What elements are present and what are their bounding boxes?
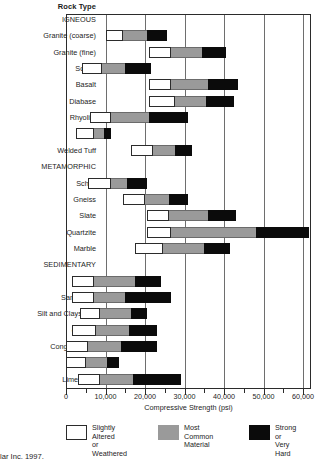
table-row [66, 357, 119, 368]
page-title: Rock Type [0, 2, 96, 11]
footer-credit: lar Inc. 1997. [0, 452, 44, 461]
bar-segment-weathered [72, 292, 94, 303]
bar-segment-common [100, 374, 134, 385]
bar-segment-weathered [106, 30, 124, 41]
chart-legend: Slightly Altered or WeatheredMost Common… [0, 424, 317, 450]
bar-segment-weathered [82, 63, 102, 74]
table-row [72, 292, 171, 303]
bar-segment-hard [135, 276, 161, 287]
bar-segment-hard [129, 325, 157, 336]
bar-segment-common [86, 357, 108, 368]
table-row [135, 243, 230, 254]
legend-label: Most Common Material [184, 424, 213, 450]
bar-segment-hard [175, 145, 193, 156]
legend-swatch-light [66, 425, 87, 440]
bar-segment-hard [121, 341, 157, 352]
bar-segment-common [163, 243, 204, 254]
y-axis-label: Granite (fine) [0, 48, 96, 57]
bar-segment-weathered [135, 243, 163, 254]
x-tick-label: 20,000 [123, 392, 167, 401]
bar-segment-weathered [66, 341, 88, 352]
gridline-40000 [224, 15, 225, 388]
gridline-50000 [264, 15, 265, 388]
y-axis-group-label: IGNEOUS [0, 15, 96, 24]
bar-segment-common [94, 128, 104, 139]
bar-segment-common [171, 227, 256, 238]
bar-segment-hard [125, 292, 170, 303]
table-row [131, 145, 192, 156]
x-axis-title: Compressive Strength (psi) [66, 403, 311, 412]
table-row [106, 30, 167, 41]
bar-segment-common [94, 292, 126, 303]
table-row [149, 79, 238, 90]
table-row [72, 276, 161, 287]
bar-segment-weathered [66, 357, 86, 368]
y-axis-label: Basalt [0, 80, 96, 89]
bar-segment-common [171, 47, 203, 58]
bar-segment-hard [149, 112, 189, 123]
bar-segment-hard [202, 47, 226, 58]
y-axis-label: Schist [0, 179, 96, 188]
bar-segment-common [111, 112, 149, 123]
y-axis-group-label: SEDIMENTARY [0, 260, 96, 269]
bar-segment-common [96, 325, 130, 336]
bar-segment-common [94, 276, 135, 287]
bar-segment-common [153, 145, 175, 156]
y-axis-label: Marble [0, 244, 96, 253]
bar-segment-weathered [147, 210, 169, 221]
bar-segment-weathered [131, 145, 153, 156]
bar-segment-common [175, 96, 207, 107]
x-tick-label: 0 [44, 392, 88, 401]
x-tick-label: 60,000 [281, 392, 317, 401]
bar-segment-weathered [90, 112, 112, 123]
x-tick-label: 10,000 [84, 392, 128, 401]
bar-segment-hard [208, 210, 236, 221]
bar-segment-weathered [147, 227, 171, 238]
legend-swatch-dark [249, 425, 270, 440]
bar-segment-weathered [149, 47, 171, 58]
bar-segment-common [171, 79, 209, 90]
table-row [90, 112, 189, 123]
table-row [76, 128, 112, 139]
bar-segment-weathered [78, 374, 100, 385]
y-axis-label: Quartzite [0, 228, 96, 237]
bar-segment-weathered [72, 276, 94, 287]
bar-segment-weathered [76, 128, 94, 139]
table-row [149, 47, 226, 58]
table-row [149, 96, 234, 107]
bar-segment-weathered [123, 194, 145, 205]
bar-segment-hard [147, 30, 167, 41]
y-axis-label: Slate [0, 211, 96, 220]
bar-segment-common [145, 194, 169, 205]
x-tick-label: 30,000 [163, 392, 207, 401]
bar-segment-hard [107, 357, 119, 368]
bar-segment-common [169, 210, 209, 221]
table-row [78, 374, 181, 385]
y-axis-label: Gneiss [0, 195, 96, 204]
y-axis-label: Granite (coarse) [0, 31, 96, 40]
bar-segment-weathered [88, 178, 112, 189]
legend-label: Strong or Very Hard [275, 424, 296, 458]
table-row [82, 63, 151, 74]
bar-segment-hard [104, 128, 112, 139]
table-row [72, 325, 157, 336]
bar-segment-hard [127, 178, 147, 189]
x-tick-label: 40,000 [202, 392, 246, 401]
bar-segment-weathered [80, 308, 100, 319]
table-row [88, 178, 147, 189]
y-axis-label: Diabase [0, 97, 96, 106]
y-axis-label: Welded Tuff [0, 146, 96, 155]
legend-label: Slightly Altered or Weathered [92, 424, 127, 458]
table-row [66, 341, 157, 352]
table-row [80, 308, 147, 319]
bar-segment-weathered [149, 79, 171, 90]
bar-segment-hard [133, 374, 180, 385]
table-row [147, 210, 236, 221]
bar-segment-common [102, 63, 126, 74]
bar-segment-common [88, 341, 122, 352]
y-axis-label: Rhyolite [0, 113, 96, 122]
legend-swatch-mid [158, 425, 179, 440]
bar-segment-hard [169, 194, 189, 205]
bar-segment-weathered [72, 325, 96, 336]
table-row [147, 227, 309, 238]
